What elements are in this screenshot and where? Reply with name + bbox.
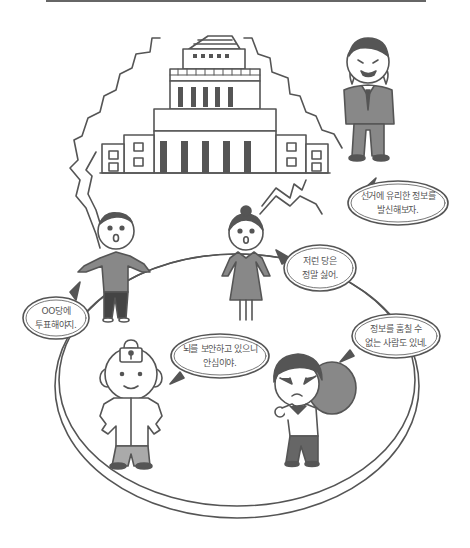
bubble-secured-line1: 뇌를 보안하고 있으니 — [172, 342, 268, 356]
bubble-thief-line2: 없는 사람도 있네. — [354, 336, 438, 350]
bubble-thief-text: 정보를 훔칠 수 없는 사람도 있네. — [354, 322, 438, 350]
bubble-girl-text: 저런 당은 정말 싫어. — [286, 254, 354, 282]
bubble-secured-line2: 안심이야. — [172, 356, 268, 370]
bubble-boy-line1: OO당에 — [24, 304, 88, 318]
bubble-boy-text: OO당에 투표해야지. — [24, 304, 88, 332]
bubble-politician-line1: 선거에 유리한 정보를 — [348, 189, 448, 203]
bubble-secured-text: 뇌를 보안하고 있으니 안심이야. — [172, 342, 268, 370]
bubble-politician-line2: 발신해보자. — [348, 203, 448, 217]
bubble-boy-line2: 투표해야지. — [24, 318, 88, 332]
bubble-politician-text: 선거에 유리한 정보를 발신해보자. — [348, 189, 448, 217]
politician-character — [344, 38, 394, 161]
bubble-girl-line2: 정말 싫어. — [286, 268, 354, 282]
bubble-girl-line1: 저런 당은 — [286, 254, 354, 268]
bubble-thief-line1: 정보를 훔칠 수 — [354, 322, 438, 336]
illustration — [0, 0, 470, 548]
